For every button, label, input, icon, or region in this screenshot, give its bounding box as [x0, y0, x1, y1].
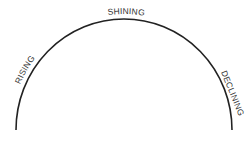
label-shining: SHINING: [107, 6, 146, 18]
label-declining-group: DECLINING: [219, 69, 246, 117]
semicircle-arc: [16, 19, 232, 130]
label-declining-text: DECLINING: [219, 69, 246, 117]
sun-arc-diagram: RISING SHINING DECLINING: [0, 0, 248, 144]
